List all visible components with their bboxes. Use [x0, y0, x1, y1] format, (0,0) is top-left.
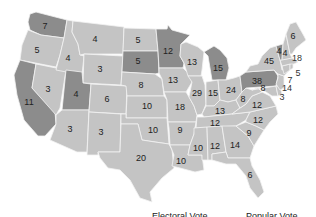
vote-label-NC: 12 — [253, 115, 263, 125]
legend-popular-vote: Popular Vote — [246, 211, 298, 217]
vote-label-NH: 4 — [282, 48, 287, 58]
vote-label-TX: 20 — [136, 153, 146, 163]
vote-label-TN: 12 — [210, 118, 220, 128]
vote-label-IN: 15 — [208, 88, 218, 98]
vote-label-RI: 5 — [295, 68, 300, 78]
vote-label-ID: 4 — [65, 53, 70, 63]
legend-electoral-vote: Electoral Vote — [152, 211, 208, 217]
vote-label-MT: 4 — [92, 34, 97, 44]
vote-label-KS: 10 — [142, 101, 152, 111]
vote-label-DE: 3 — [279, 92, 284, 102]
vote-label-NY: 45 — [264, 56, 274, 66]
vote-label-MI: 15 — [213, 63, 223, 73]
vote-label-MN: 12 — [163, 46, 173, 56]
vote-label-MA: 18 — [292, 53, 302, 63]
vote-label-WA: 7 — [42, 21, 47, 31]
vote-label-AR: 9 — [177, 125, 182, 135]
vote-label-KY: 13 — [215, 106, 225, 116]
vote-label-ME: 6 — [290, 31, 295, 41]
vote-label-ND: 5 — [135, 35, 140, 45]
state-FL[interactable] — [212, 152, 264, 198]
vote-label-VT: 4 — [276, 46, 281, 56]
vote-label-AZ: 3 — [67, 124, 72, 134]
vote-label-GA: 14 — [230, 140, 240, 150]
vote-label-MD: 8 — [260, 83, 265, 93]
vote-label-OK: 10 — [148, 125, 158, 135]
vote-label-WV: 8 — [240, 94, 245, 104]
vote-label-UT: 4 — [73, 89, 78, 99]
vote-label-CO: 6 — [104, 94, 109, 104]
state-NM[interactable] — [87, 112, 121, 155]
vote-label-WY: 3 — [97, 64, 102, 74]
vote-label-CA: 11 — [24, 97, 33, 107]
vote-label-VA: 12 — [252, 100, 262, 110]
vote-label-OH: 24 — [226, 85, 236, 95]
vote-label-FL: 6 — [247, 170, 252, 180]
vote-label-SD: 5 — [135, 56, 140, 66]
vote-label-OR: 5 — [34, 45, 39, 55]
vote-label-NM: 3 — [98, 127, 103, 137]
vote-label-SC: 9 — [246, 128, 251, 138]
state-ME[interactable] — [286, 22, 306, 54]
vote-label-MO: 18 — [175, 102, 185, 112]
vote-label-WI: 13 — [187, 57, 197, 67]
vote-label-IL: 29 — [192, 88, 202, 98]
vote-label-NE: 8 — [138, 80, 143, 90]
state-WY[interactable] — [83, 54, 123, 85]
vote-label-MS: 10 — [193, 143, 203, 153]
vote-label-AL: 12 — [210, 141, 220, 151]
state-MT[interactable] — [72, 21, 124, 55]
state-shapes — [14, 12, 306, 202]
vote-label-LA: 10 — [176, 156, 186, 166]
us-electoral-map: 7511344343635581010201213189101329151524… — [0, 0, 316, 217]
vote-label-NV: 3 — [45, 84, 50, 94]
vote-label-IA: 13 — [168, 75, 178, 85]
